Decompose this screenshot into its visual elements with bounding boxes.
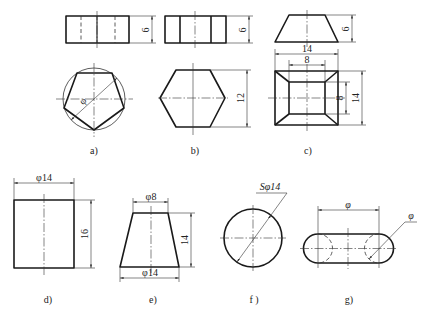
e-dim-top: φ8 xyxy=(146,191,157,202)
d-dim-height: 16 xyxy=(79,229,90,239)
panel-f: Sφ14 f ) xyxy=(220,181,287,306)
f-dim-diameter: Sφ14 xyxy=(260,181,281,192)
g-dim-end-diameter: φ xyxy=(408,210,414,221)
c-dim-inner-width: 8 xyxy=(305,54,310,65)
b-hexagon xyxy=(160,70,225,127)
panel-d: φ14 16 d) xyxy=(14,172,95,306)
b-dim-height: 6 xyxy=(237,28,248,33)
label-g: g) xyxy=(345,294,353,306)
e-dim-bottom: φ14 xyxy=(142,267,158,278)
c-front-view xyxy=(275,15,338,42)
a-dim-phi: φ xyxy=(77,94,89,106)
panel-c: 6 14 8 8 14 c) xyxy=(268,10,366,157)
a-dim-height: 6 xyxy=(140,28,151,33)
label-c: c) xyxy=(304,145,312,157)
g-dim-center-distance: φ xyxy=(345,199,351,210)
panel-e: φ8 φ14 14 e) xyxy=(120,191,195,306)
c-dim-height: 6 xyxy=(340,27,351,32)
panel-g: φ φ g) xyxy=(300,199,417,306)
panel-a: 6 φ a) xyxy=(56,11,156,157)
label-e: e) xyxy=(149,294,157,306)
c-dim-inner-height: 8 xyxy=(334,96,345,101)
c-dim-outer-width: 14 xyxy=(302,43,312,54)
e-dim-height: 14 xyxy=(179,235,190,245)
e-frustum xyxy=(120,213,179,267)
technical-drawing: 6 φ a) 6 12 b) 6 xyxy=(0,0,424,318)
label-f: f ) xyxy=(249,294,258,306)
b-front-view xyxy=(165,16,226,43)
d-dim-diameter: φ14 xyxy=(36,172,52,183)
label-a: a) xyxy=(90,145,98,157)
panel-b: 6 12 b) xyxy=(158,11,253,157)
label-d: d) xyxy=(44,294,52,306)
b-dim-width: 12 xyxy=(235,93,246,103)
label-b: b) xyxy=(191,145,199,157)
c-dim-outer-height: 14 xyxy=(350,93,361,103)
